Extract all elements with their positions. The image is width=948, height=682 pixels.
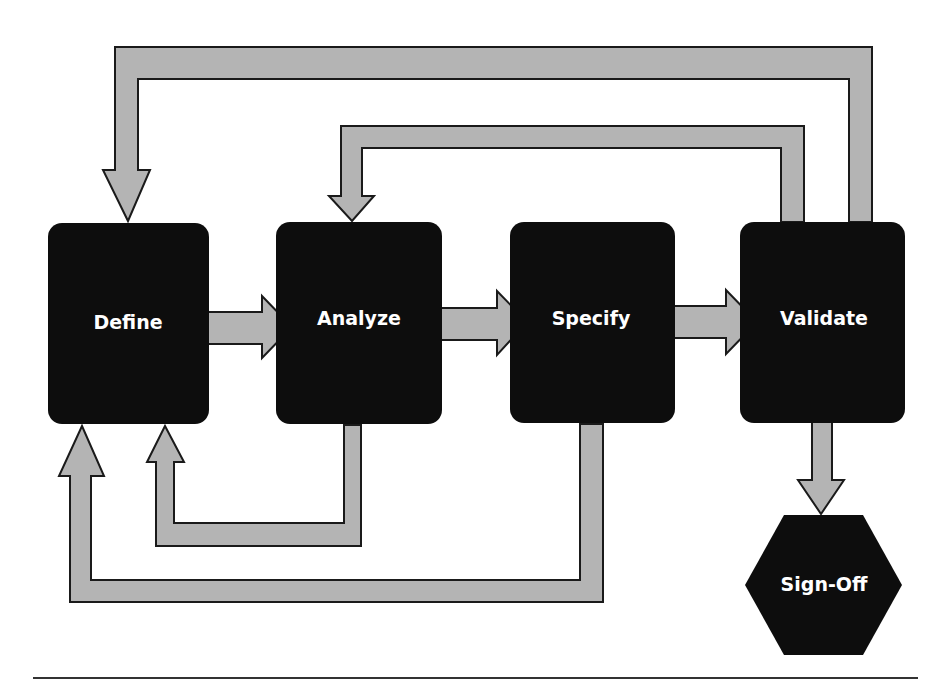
node-validate-label: Validate xyxy=(780,307,868,329)
node-validate: Validate xyxy=(740,222,905,423)
node-specify-label: Specify xyxy=(552,307,631,329)
feedback-arrow-specify-to-define xyxy=(59,424,603,602)
node-define: Define xyxy=(48,223,209,424)
node-define-label: Define xyxy=(93,311,162,333)
feedback-arrow-analyze-to-define xyxy=(147,425,361,546)
forward-arrow-validate-to-signoff xyxy=(798,420,844,514)
process-flow-diagram: Define Analyze Specify Validate Sign-Off xyxy=(0,0,948,682)
feedback-arrow-validate-to-analyze xyxy=(329,126,804,222)
node-specify: Specify xyxy=(510,222,675,423)
node-signoff-label: Sign-Off xyxy=(781,573,868,595)
node-signoff: Sign-Off xyxy=(745,515,902,655)
node-analyze-label: Analyze xyxy=(317,307,401,329)
node-analyze: Analyze xyxy=(276,222,442,424)
